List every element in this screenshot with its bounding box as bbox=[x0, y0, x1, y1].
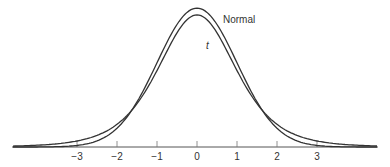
normal-label: Normal bbox=[223, 14, 255, 25]
x-tick-label: 3 bbox=[314, 151, 320, 162]
x-tick-label: 2 bbox=[274, 151, 280, 162]
x-tick-label: −1 bbox=[151, 151, 163, 162]
distribution-chart: −3−2−10123 Normal t bbox=[0, 0, 390, 167]
x-tick-label: 0 bbox=[194, 151, 200, 162]
x-tick-label: 1 bbox=[234, 151, 240, 162]
t-label: t bbox=[206, 40, 210, 51]
x-tick-label: −2 bbox=[111, 151, 123, 162]
x-tick-label: −3 bbox=[71, 151, 83, 162]
t-curve bbox=[13, 15, 377, 146]
normal-curve bbox=[13, 8, 377, 147]
x-axis-ticks: −3−2−10123 bbox=[71, 141, 320, 162]
